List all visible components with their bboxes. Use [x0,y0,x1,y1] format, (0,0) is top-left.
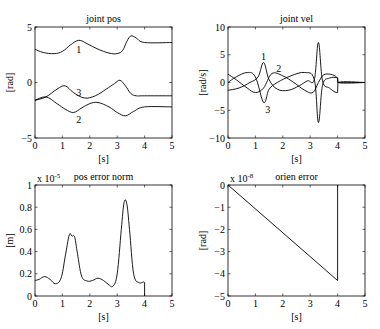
x-tick-label: 1 [60,140,65,151]
series-line-1 [228,42,365,92]
y-tick-label: 5 [220,49,225,60]
y-tick-label: 5 [27,22,32,33]
y-tick-label: 0 [27,77,32,88]
exponent-label: x 10-8 [230,172,254,184]
x-tick-label: 5 [170,298,175,309]
x-axis-label: [s] [98,153,109,164]
y-tick-label: 1 [27,180,32,191]
curve-label: 1 [261,51,266,62]
x-tick-label: 0 [33,140,38,151]
axes-frame [228,185,365,296]
y-tick-label: 10 [215,22,225,33]
y-tick-label: −4 [214,268,225,279]
axes-frame [35,185,172,296]
x-axis-label: [s] [98,311,109,322]
y-tick-label: −5 [214,105,225,116]
subplot-orien-error: 012345−5−4−3−2−10orien error[s][rad]x 10… [197,171,368,322]
y-tick-label: −10 [209,133,225,144]
y-tick-label: −2 [214,224,225,235]
x-tick-label: 2 [87,140,92,151]
subplot-joint-pos: 012345−505132joint pos[s][rad] [4,13,175,164]
y-axis-label: [m] [4,233,15,247]
subplot-pos-error-norm: 01234500.20.40.60.81pos error norm[s][m]… [4,171,175,322]
y-tick-label: −5 [21,133,32,144]
curve-label: 2 [276,63,281,74]
series-line-3 [228,72,365,122]
y-tick-label: 0 [27,291,32,302]
y-tick-label: 0.8 [20,202,33,213]
x-tick-label: 1 [253,298,258,309]
x-tick-label: 2 [280,298,285,309]
y-tick-label: −3 [214,246,225,257]
x-tick-label: 0 [33,298,38,309]
x-tick-label: 3 [115,140,120,151]
y-axis-label: [rad/s] [197,69,208,95]
x-tick-label: 3 [308,298,313,309]
curve-label: 2 [76,114,81,125]
x-tick-label: 2 [87,298,92,309]
x-tick-label: 4 [142,140,147,151]
x-axis-label: [s] [291,311,302,322]
subplot-joint-vel: 012345−10−50510123joint vel[s][rad/s] [197,13,368,164]
x-tick-label: 5 [363,140,368,151]
chart-title: joint vel [279,13,313,24]
chart-title: pos error norm [74,171,134,182]
curve-label: 3 [76,87,81,98]
y-tick-label: 0.6 [20,224,33,235]
y-tick-label: 0.4 [20,246,33,257]
y-tick-label: 0 [220,180,225,191]
series-line-1 [35,36,172,54]
x-tick-label: 1 [60,298,65,309]
y-tick-label: −5 [214,291,225,302]
y-tick-label: 0.2 [20,268,33,279]
x-tick-label: 4 [335,140,340,151]
x-tick-label: 0 [226,298,231,309]
series-line-3 [35,80,172,100]
chart-title: joint pos [85,13,121,24]
x-tick-label: 4 [335,298,340,309]
y-tick-label: −1 [214,202,225,213]
x-tick-label: 5 [170,140,175,151]
x-tick-label: 4 [142,298,147,309]
x-tick-label: 3 [115,298,120,309]
y-axis-label: [rad] [4,73,15,92]
curve-label: 1 [76,44,81,55]
figure: 012345−505132joint pos[s][rad]012345−10−… [0,0,380,329]
x-tick-label: 2 [280,140,285,151]
x-tick-label: 1 [253,140,258,151]
series-line-orien-error [228,185,338,281]
series-line-pos-error-norm [35,200,145,296]
axes-frame [35,27,172,138]
curve-label: 3 [265,104,270,115]
y-tick-label: 0 [220,77,225,88]
exponent-label: x 10-5 [37,172,61,184]
series-line-2 [35,97,172,116]
x-tick-label: 0 [226,140,231,151]
x-tick-label: 3 [308,140,313,151]
chart-title: orien error [275,171,318,182]
y-axis-label: [rad] [197,231,208,250]
x-axis-label: [s] [291,153,302,164]
x-tick-label: 5 [363,298,368,309]
